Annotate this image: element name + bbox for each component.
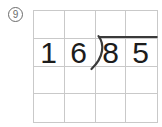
divisor-digit-tens: 1 bbox=[40, 38, 57, 68]
worksheet-cell: 9 1 6 8 5 bbox=[0, 0, 162, 127]
grid-cell bbox=[65, 67, 96, 95]
grid-cell bbox=[65, 94, 96, 122]
dividend-digit-tens: 8 bbox=[102, 38, 119, 68]
grid-cell bbox=[96, 94, 127, 122]
dividend-digit-ones: 5 bbox=[132, 38, 149, 68]
grid-cell bbox=[126, 67, 157, 95]
grid-cell bbox=[34, 67, 65, 95]
grid-cell bbox=[96, 67, 127, 95]
grid-cell bbox=[34, 94, 65, 122]
grid-cell bbox=[126, 94, 157, 122]
divisor-digit-ones: 6 bbox=[70, 38, 87, 68]
problem-number-text: 9 bbox=[13, 10, 19, 20]
problem-number-badge: 9 bbox=[8, 7, 23, 22]
